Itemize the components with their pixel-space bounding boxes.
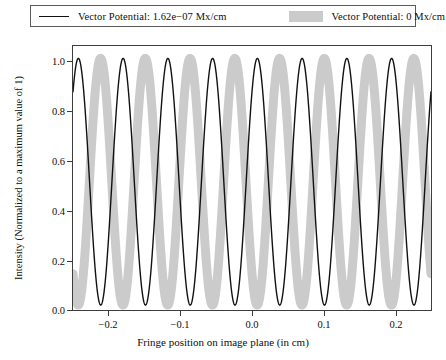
x-tick-1 <box>180 311 181 316</box>
legend-label-vector-potential-zero: Vector Potential: 0 Mx/cm <box>332 11 446 22</box>
y-ticklabel-1: 0.2 <box>52 256 65 267</box>
y-ticklabel-4: 0.8 <box>52 106 65 117</box>
y-axis-title: Intensity (Normalized to a maximum value… <box>13 76 24 280</box>
x-ticklabel-0: −0.2 <box>98 319 117 330</box>
plot-curves <box>73 46 431 310</box>
y-ticklabel-3: 0.6 <box>52 156 65 167</box>
y-ticklabel-5: 1.0 <box>52 56 65 67</box>
y-tick-1 <box>67 261 72 262</box>
legend-entry-vector-potential-nonzero: Vector Potential: 1.62e−07 Mx/cm <box>39 6 227 26</box>
x-tick-3 <box>324 311 325 316</box>
legend-band-swatch-icon <box>289 11 323 22</box>
figure-canvas: Vector Potential: 1.62e−07 Mx/cm Vector … <box>0 0 446 360</box>
x-tick-4 <box>396 311 397 316</box>
y-tick-3 <box>67 161 72 162</box>
y-tick-0 <box>67 310 72 311</box>
y-tick-4 <box>67 111 72 112</box>
chart-legend: Vector Potential: 1.62e−07 Mx/cm Vector … <box>30 5 416 27</box>
x-ticklabel-1: −0.1 <box>170 319 189 330</box>
y-tick-2 <box>67 211 72 212</box>
y-tick-5 <box>67 61 72 62</box>
plot-area <box>72 45 432 311</box>
legend-label-vector-potential-nonzero: Vector Potential: 1.62e−07 Mx/cm <box>78 11 227 22</box>
legend-line-swatch-icon <box>39 16 69 17</box>
x-ticklabel-4: 0.2 <box>389 319 402 330</box>
x-ticklabel-3: 0.1 <box>317 319 330 330</box>
x-axis-title: Fringe position on image plane (in cm) <box>0 336 446 348</box>
x-tick-2 <box>252 311 253 316</box>
y-ticklabel-2: 0.4 <box>52 206 65 217</box>
x-tick-0 <box>108 311 109 316</box>
y-ticklabel-0: 0.0 <box>52 305 65 316</box>
legend-entry-vector-potential-zero: Vector Potential: 0 Mx/cm <box>289 6 446 26</box>
x-ticklabel-2: 0.0 <box>245 319 258 330</box>
